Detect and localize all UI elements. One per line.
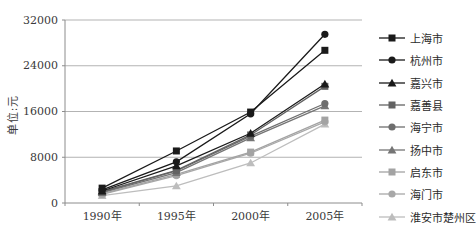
circle-legend-icon — [379, 121, 405, 133]
legend: 上海市杭州市嘉兴市嘉善县海宁市扬中市启东市海门市淮安市楚州区 — [379, 27, 470, 228]
legend-label: 海门市 — [410, 186, 443, 202]
legend-label: 杭州市 — [410, 52, 443, 68]
legend-item: 上海市 — [379, 27, 470, 49]
square-marker — [173, 147, 180, 154]
y-tick-label: 24000 — [23, 59, 58, 72]
square-marker — [99, 185, 106, 192]
triangle-marker — [246, 159, 255, 167]
legend-item: 海宁市 — [379, 116, 470, 138]
legend-label: 嘉兴市 — [410, 75, 443, 91]
legend-label: 启东市 — [410, 164, 443, 180]
legend-item: 嘉善县 — [379, 94, 470, 116]
legend-label: 嘉善县 — [410, 97, 443, 113]
square-legend-icon — [379, 166, 405, 178]
legend-item: 淮安市楚州区 — [379, 205, 470, 227]
x-tick-label: 2005年 — [305, 209, 344, 223]
circle-legend-icon — [379, 54, 405, 66]
triangle-legend-icon — [379, 77, 405, 89]
square-marker — [321, 117, 328, 124]
y-tick-label: 0 — [51, 197, 58, 210]
legend-item: 嘉兴市 — [379, 72, 470, 94]
series-line — [102, 103, 325, 192]
legend-item: 扬中市 — [379, 138, 470, 160]
circle-marker — [173, 158, 180, 165]
x-tick-label: 2000年 — [231, 209, 270, 223]
legend-item: 海门市 — [379, 183, 470, 205]
legend-label: 扬中市 — [410, 142, 443, 158]
x-tick-label: 1990年 — [83, 209, 122, 223]
y-tick-label: 16000 — [23, 105, 58, 118]
y-tick-label: 32000 — [23, 14, 58, 27]
legend-label: 淮安市楚州区 — [410, 209, 476, 225]
square-marker — [321, 47, 328, 54]
triangle-legend-icon — [379, 211, 405, 223]
legend-label: 上海市 — [410, 30, 443, 46]
circle-marker — [321, 100, 328, 107]
triangle-legend-icon — [379, 144, 405, 156]
square-legend-icon — [379, 99, 405, 111]
square-legend-icon — [379, 32, 405, 44]
series-line — [102, 34, 325, 190]
series-line — [102, 86, 325, 191]
circle-legend-icon — [379, 188, 405, 200]
legend-label: 海宁市 — [410, 119, 443, 135]
circle-marker — [321, 31, 328, 38]
legend-item: 杭州市 — [379, 49, 470, 71]
legend-item: 启东市 — [379, 161, 470, 183]
x-tick-label: 1995年 — [157, 209, 196, 223]
square-marker — [247, 109, 254, 116]
y-tick-label: 8000 — [30, 151, 58, 164]
square-marker — [247, 149, 254, 156]
